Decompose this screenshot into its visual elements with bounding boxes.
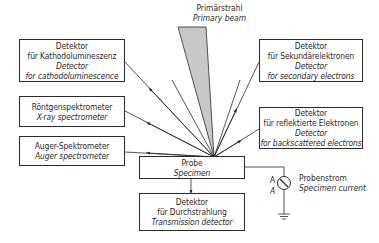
- box-text: für Durchstrahlung: [140, 207, 244, 217]
- secondary-electron-detector-box: Detektor für Sekundärelektronen Detector…: [259, 39, 363, 82]
- box-text: X-ray spectrometer: [20, 112, 124, 122]
- box-text: Detektor: [260, 108, 362, 118]
- ammeter-label-a1: A: [270, 175, 275, 185]
- box-text: Röntgenspektrometer: [20, 102, 124, 112]
- box-text: für Kathodolumineszenz: [20, 51, 124, 61]
- box-text: for cathodoluminescence: [20, 71, 124, 81]
- box-text: Detector: [20, 61, 124, 71]
- primary-beam-de: Primärstrahl: [193, 3, 246, 13]
- box-text: Auger spectrometer: [20, 151, 124, 161]
- primary-beam-en: Primary beam: [193, 13, 246, 23]
- box-text: Specimen: [140, 168, 244, 178]
- ammeter-label-a2: A: [270, 186, 275, 196]
- auger-spectrometer-box: Auger-Spektrometer Auger spectrometer: [19, 136, 125, 166]
- box-text: Detector: [260, 128, 362, 138]
- box-text: Transmission detector: [140, 217, 244, 227]
- specimen-current-label: Probenstrom Specimen current: [299, 173, 366, 193]
- box-text: für reflektierte Elektronen: [260, 118, 362, 128]
- box-text: für Sekundärelektronen: [260, 51, 362, 61]
- box-text: for backscattered electrons: [260, 138, 362, 148]
- box-text: for secondary electrons: [260, 71, 362, 81]
- box-text: Detektor: [140, 197, 244, 207]
- specimen-current-en: Specimen current: [299, 183, 366, 193]
- ammeter-icon: [278, 177, 291, 190]
- cathodoluminescence-detector-box: Detektor für Kathodolumineszenz Detector…: [19, 39, 125, 82]
- transmission-detector-box: Detektor für Durchstrahlung Transmission…: [139, 193, 245, 231]
- backscattered-electron-detector-box: Detektor für reflektierte Elektronen Det…: [259, 107, 363, 149]
- box-text: Detektor: [260, 41, 362, 51]
- primary-beam-label: Primärstrahl Primary beam: [193, 3, 246, 23]
- specimen-current-de: Probenstrom: [299, 173, 366, 183]
- box-text: Probe: [140, 158, 244, 168]
- box-text: Detektor: [20, 41, 124, 51]
- specimen-box: Probe Specimen: [139, 156, 245, 179]
- box-text: Detector: [260, 61, 362, 71]
- box-text: Auger-Spektrometer: [20, 141, 124, 151]
- xray-spectrometer-box: Röntgenspektrometer X-ray spectrometer: [19, 96, 125, 127]
